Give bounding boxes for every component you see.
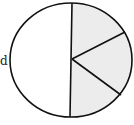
shaded-right-half	[71, 0, 134, 125]
partitioned-circle	[0, 0, 134, 125]
